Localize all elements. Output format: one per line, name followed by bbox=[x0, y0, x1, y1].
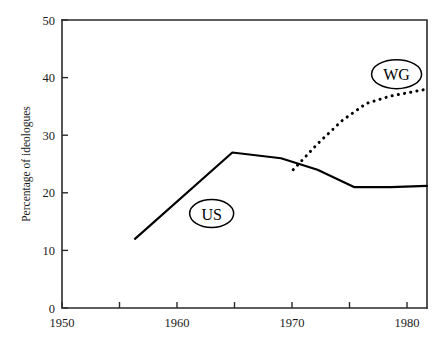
x-tick-label-1970: 1970 bbox=[280, 316, 305, 330]
y-tick-label-50: 50 bbox=[43, 14, 56, 28]
us-callout-label: US bbox=[201, 206, 221, 223]
line-chart: 0 10 20 30 40 50 1950 1960 1970 1980 Per… bbox=[0, 0, 447, 357]
y-axis-tick-labels: 0 10 20 30 40 50 bbox=[43, 14, 56, 316]
y-tick-label-30: 30 bbox=[43, 129, 56, 143]
x-axis-tick-labels: 1950 1960 1970 1980 bbox=[50, 316, 420, 330]
y-tick-label-20: 20 bbox=[43, 186, 56, 200]
series-line-us bbox=[135, 152, 427, 238]
axis-top-right bbox=[62, 20, 427, 308]
x-tick-label-1960: 1960 bbox=[165, 316, 190, 330]
x-tick-label-1950: 1950 bbox=[50, 316, 75, 330]
y-axis-ticks bbox=[62, 20, 68, 308]
series-line-wg bbox=[293, 89, 427, 170]
x-tick-label-1980: 1980 bbox=[395, 316, 420, 330]
wg-callout-label: WG bbox=[383, 66, 410, 83]
annotation-wg: WG bbox=[372, 60, 422, 89]
annotation-us: US bbox=[190, 200, 234, 228]
axis-left-bottom bbox=[62, 20, 427, 308]
y-tick-label-0: 0 bbox=[49, 302, 55, 316]
y-tick-label-10: 10 bbox=[43, 244, 56, 258]
plot-frame bbox=[62, 20, 427, 308]
x-axis-ticks bbox=[62, 302, 407, 308]
y-tick-label-40: 40 bbox=[43, 71, 56, 85]
y-axis-title: Percentage of ideologues bbox=[20, 106, 33, 222]
chart-figure: 0 10 20 30 40 50 1950 1960 1970 1980 Per… bbox=[0, 0, 447, 357]
